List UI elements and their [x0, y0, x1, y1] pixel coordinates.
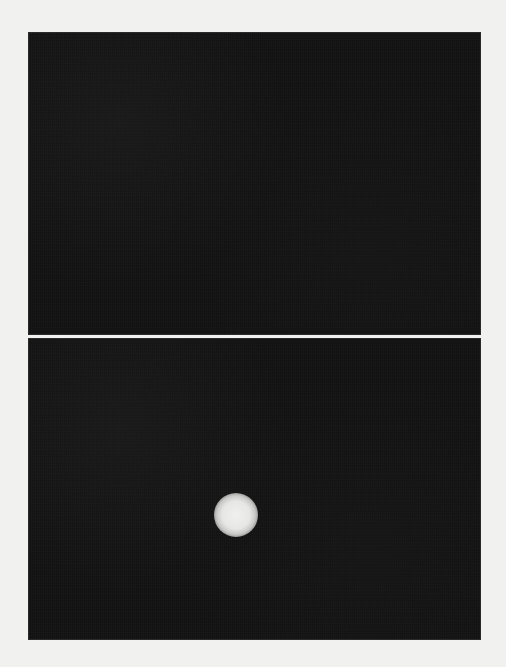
top-image-panel — [29, 33, 480, 334]
bottom-image-panel — [29, 339, 480, 639]
bright-spot — [214, 493, 258, 537]
